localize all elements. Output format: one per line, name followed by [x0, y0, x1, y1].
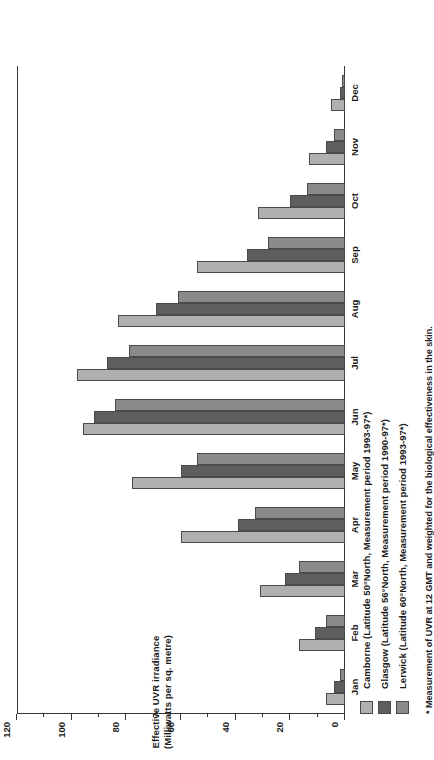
- value-axis-tick-minor: [317, 714, 318, 718]
- value-axis-tick-minor: [207, 714, 208, 718]
- value-axis-tick-minor: [98, 714, 99, 718]
- category-label-feb: Feb: [349, 625, 360, 642]
- category-label-jan: Jan: [349, 679, 360, 695]
- bar-lerwick-mar: [299, 561, 345, 573]
- bar-lerwick-jun: [115, 399, 345, 411]
- value-axis-label: 20: [274, 722, 285, 748]
- plot-top-rule: [17, 66, 345, 714]
- bar-camborne-dec: [331, 99, 345, 111]
- chart-footnote: * Measurement of UVR at 12 GMT and weigh…: [424, 326, 434, 714]
- bar-glasgow-sep: [247, 249, 345, 261]
- category-label-may: May: [349, 462, 360, 480]
- bar-camborne-feb: [299, 639, 345, 651]
- value-axis-tick-major: [71, 714, 72, 720]
- category-label-jul: Jul: [349, 356, 360, 370]
- category-label-dec: Dec: [349, 84, 360, 101]
- value-axis-tick-major: [16, 714, 17, 720]
- plot-area: 020406080100120 JanFebMarAprMayJunJulAug…: [17, 66, 345, 714]
- bar-glasgow-dec: [340, 87, 345, 99]
- value-axis-tick-major: [180, 714, 181, 720]
- bar-glasgow-jan: [334, 681, 345, 693]
- bar-camborne-aug: [118, 315, 345, 327]
- bar-glasgow-aug: [156, 303, 345, 315]
- legend-item-glasgow: Glasgow (Latitude 56°North, Measurement …: [378, 419, 391, 714]
- legend-label-camborne: Camborne (Latitude 50°North, Measurement…: [361, 412, 372, 689]
- bar-lerwick-jan: [340, 669, 345, 681]
- bar-glasgow-jul: [107, 357, 345, 369]
- value-axis-tick-major: [125, 714, 126, 720]
- category-label-mar: Mar: [349, 571, 360, 588]
- bar-glasgow-may: [181, 465, 345, 477]
- bar-glasgow-mar: [285, 573, 345, 585]
- bar-glasgow-oct: [290, 195, 345, 207]
- value-axis-tick-major: [235, 714, 236, 720]
- category-label-nov: Nov: [349, 138, 360, 156]
- bar-camborne-jan: [326, 693, 345, 705]
- value-axis-label: 100: [55, 722, 66, 748]
- category-label-sep: Sep: [349, 246, 360, 263]
- bar-lerwick-may: [197, 453, 345, 465]
- bar-glasgow-apr: [238, 519, 345, 531]
- bar-glasgow-nov: [326, 141, 345, 153]
- legend-swatch-lerwick: [396, 701, 409, 714]
- category-label-jun: Jun: [349, 409, 360, 426]
- bar-lerwick-oct: [307, 183, 345, 195]
- category-label-aug: Aug: [349, 300, 360, 318]
- bar-lerwick-aug: [178, 291, 345, 303]
- bar-lerwick-jul: [129, 345, 345, 357]
- value-axis-label: 80: [110, 722, 121, 748]
- value-axis-tick-minor: [262, 714, 263, 718]
- bar-camborne-may: [132, 477, 345, 489]
- bar-camborne-sep: [197, 261, 345, 273]
- legend-swatch-glasgow: [378, 701, 391, 714]
- bar-glasgow-jun: [94, 411, 345, 423]
- value-axis-label: 120: [1, 722, 12, 748]
- bar-lerwick-apr: [255, 507, 345, 519]
- value-axis-tick-minor: [43, 714, 44, 718]
- bar-lerwick-dec: [342, 75, 345, 87]
- bar-camborne-jun: [83, 423, 345, 435]
- bar-camborne-mar: [260, 585, 345, 597]
- value-axis-label: 40: [219, 722, 230, 748]
- bar-camborne-jul: [77, 369, 345, 381]
- bar-camborne-oct: [258, 207, 345, 219]
- legend-swatch-camborne: [360, 701, 373, 714]
- category-label-apr: Apr: [349, 517, 360, 533]
- bar-glasgow-feb: [315, 627, 345, 639]
- bar-camborne-nov: [309, 153, 345, 165]
- legend-label-glasgow: Glasgow (Latitude 56°North, Measurement …: [379, 419, 390, 689]
- bar-lerwick-nov: [334, 129, 345, 141]
- value-axis-label: 0: [329, 722, 340, 748]
- value-axis-label: 60: [165, 722, 176, 748]
- category-label-oct: Oct: [349, 193, 360, 209]
- value-axis-tick-major: [289, 714, 290, 720]
- value-axis-tick-minor: [153, 714, 154, 718]
- legend-item-lerwick: Lerwick (Latitude 60°North, Measurement …: [396, 423, 409, 714]
- value-axis-tick-major: [344, 714, 345, 720]
- legend-item-camborne: Camborne (Latitude 50°North, Measurement…: [360, 412, 373, 714]
- bar-camborne-apr: [181, 531, 345, 543]
- bar-lerwick-sep: [268, 237, 345, 249]
- bar-lerwick-feb: [326, 615, 345, 627]
- legend-label-lerwick: Lerwick (Latitude 60°North, Measurement …: [397, 423, 408, 689]
